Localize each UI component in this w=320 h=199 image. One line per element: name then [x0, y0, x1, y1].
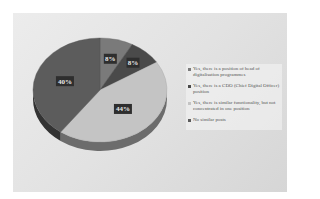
legend-label: Yes, there is a CDO (Chief Digital Offic…: [193, 83, 280, 95]
legend-label: Yes, there is a position of head of digi…: [193, 66, 280, 78]
data-label-3: 40%: [58, 78, 72, 86]
legend-marker: [188, 68, 191, 71]
legend-marker: [188, 102, 191, 105]
legend-item-head-of-digitalisation: Yes, there is a position of head of digi…: [188, 66, 280, 78]
legend-marker: [188, 85, 191, 88]
legend-item-similar-functionality: Yes, there is similar functionality, but…: [188, 100, 280, 112]
legend-label: Yes, there is similar functionality, but…: [193, 100, 280, 112]
data-label-0: 8%: [105, 55, 116, 63]
legend-marker: [188, 119, 191, 122]
data-label-1: 8%: [128, 59, 139, 67]
legend-label: No similar posts: [193, 117, 226, 123]
chart-legend: Yes, there is a position of head of digi…: [186, 64, 282, 130]
data-label-2: 44%: [116, 105, 130, 113]
legend-item-no-similar-posts: No similar posts: [188, 117, 280, 123]
legend-item-cdo: Yes, there is a CDO (Chief Digital Offic…: [188, 83, 280, 95]
pie-slices: [33, 38, 167, 142]
